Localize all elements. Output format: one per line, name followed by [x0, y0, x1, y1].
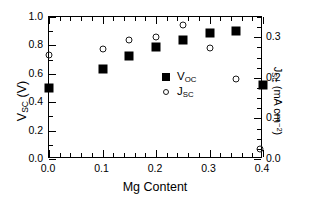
axis-tick: [124, 153, 125, 157]
y-axis-right-title-close: ): [272, 131, 284, 135]
y-tick-label-left: 0.4: [16, 96, 43, 107]
axis-tick: [49, 74, 56, 75]
open-circle-icon: [155, 89, 177, 95]
axis-tick: [49, 145, 53, 146]
x-tick-label: 0.4: [255, 163, 270, 174]
axis-tick: [220, 17, 221, 21]
axis-tick: [92, 153, 93, 157]
axis-tick: [177, 153, 178, 157]
axis-tick: [188, 17, 189, 21]
axis-tick: [257, 139, 261, 140]
data-point-jsc: [206, 45, 213, 52]
axis-tick: [60, 153, 61, 157]
chart-figure: VSC (V) JSC (mA cm−2) Mg Content 0.00.10…: [0, 0, 309, 201]
axis-tick: [167, 17, 168, 21]
y-tick-label-right: 0.0: [266, 153, 281, 164]
axis-tick: [242, 17, 243, 21]
axis-tick: [199, 153, 200, 157]
axis-tick: [177, 17, 178, 21]
axis-tick: [49, 17, 50, 24]
axis-tick: [210, 150, 211, 157]
data-point-voc: [125, 52, 134, 61]
axis-tick: [49, 116, 53, 117]
axis-tick: [49, 131, 56, 132]
legend-item-jsc: JSC: [155, 84, 196, 99]
axis-tick: [252, 153, 253, 157]
axis-tick: [254, 159, 261, 160]
axis-tick: [145, 153, 146, 157]
y-tick-label-left: 1.0: [16, 11, 43, 22]
x-tick-label: 0.3: [201, 163, 216, 174]
axis-tick: [81, 153, 82, 157]
axis-tick: [231, 17, 232, 21]
axis-tick: [257, 68, 261, 69]
axis-tick: [60, 17, 61, 21]
axis-tick: [49, 45, 56, 46]
axis-tick: [199, 17, 200, 21]
axis-tick: [210, 17, 211, 24]
x-axis-title: Mg Content: [48, 180, 262, 194]
axis-tick: [257, 17, 261, 18]
data-point-voc: [232, 27, 241, 36]
axis-tick: [220, 153, 221, 157]
data-point-jsc: [46, 51, 53, 58]
axis-tick: [49, 60, 53, 61]
axis-tick: [103, 150, 104, 157]
data-point-voc: [178, 35, 187, 44]
axis-tick: [113, 17, 114, 21]
data-point-jsc: [126, 36, 133, 43]
axis-tick: [156, 150, 157, 157]
axis-tick: [49, 150, 50, 157]
axis-tick: [70, 153, 71, 157]
data-point-jsc: [233, 76, 240, 83]
data-point-voc: [98, 64, 107, 73]
axis-tick: [49, 159, 56, 160]
data-point-jsc: [153, 33, 160, 40]
axis-tick: [231, 153, 232, 157]
y-tick-label-right: 0.2: [266, 72, 281, 83]
legend-item-voc: VOC: [155, 69, 196, 84]
axis-tick: [135, 17, 136, 21]
axis-tick: [254, 37, 261, 38]
axis-tick: [257, 47, 261, 48]
x-tick-label: 0.1: [94, 163, 109, 174]
y-tick-label-right: 0.3: [266, 31, 281, 42]
data-point-voc: [152, 42, 161, 51]
y-tick-label-left: 0.0: [16, 153, 43, 164]
axis-tick: [257, 27, 261, 28]
axis-tick: [103, 17, 104, 24]
axis-tick: [242, 153, 243, 157]
x-tick-label: 0.0: [41, 163, 56, 174]
axis-tick: [263, 17, 264, 24]
y-tick-label-left: 0.2: [16, 124, 43, 135]
axis-tick: [257, 58, 261, 59]
axis-tick: [156, 17, 157, 24]
data-point-voc: [45, 84, 54, 93]
axis-tick: [124, 17, 125, 21]
data-point-voc: [205, 29, 214, 38]
axis-tick: [254, 118, 261, 119]
y-axis-left-title-main: V: [15, 112, 29, 120]
axis-tick: [167, 153, 168, 157]
y-axis-left-title-unit: (V): [15, 80, 29, 97]
data-point-jsc: [257, 146, 264, 153]
axis-tick: [81, 17, 82, 21]
axis-tick: [257, 108, 261, 109]
legend-label-jsc: JSC: [177, 85, 194, 99]
y-tick-label-left: 0.8: [16, 39, 43, 50]
axis-tick: [254, 78, 261, 79]
y-tick-label-left: 0.6: [16, 68, 43, 79]
axis-tick: [92, 17, 93, 21]
axis-tick: [49, 17, 56, 18]
axis-tick: [49, 31, 53, 32]
axis-tick: [113, 153, 114, 157]
axis-tick: [49, 102, 56, 103]
x-tick-label: 0.2: [148, 163, 163, 174]
axis-tick: [257, 98, 261, 99]
data-point-jsc: [179, 21, 186, 28]
y-tick-label-right: 0.1: [266, 112, 281, 123]
legend: VOC JSC: [155, 69, 196, 99]
legend-label-voc: VOC: [177, 70, 196, 84]
axis-tick: [252, 17, 253, 21]
axis-tick: [70, 17, 71, 21]
